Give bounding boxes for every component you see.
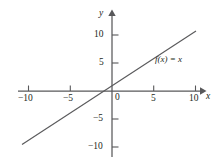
x-tick-label-neg10: −10 bbox=[18, 94, 33, 104]
function-graph-figure: y x 0 −10 −5 5 10 10 5 −5 −10 f(x) = x bbox=[0, 0, 215, 161]
function-annotation-label: f(x) = x bbox=[155, 55, 182, 64]
x-tick-label-neg5: −5 bbox=[63, 94, 73, 104]
y-tick-label-neg10: −10 bbox=[88, 142, 103, 152]
function-line-fx-equals-x bbox=[22, 31, 196, 145]
x-tick-label-pos10: 10 bbox=[189, 94, 198, 104]
y-axis-label: y bbox=[99, 9, 103, 19]
x-axis-label: x bbox=[206, 92, 210, 102]
y-tick-label-pos5: 5 bbox=[99, 58, 104, 68]
y-axis-arrowhead bbox=[108, 10, 115, 17]
y-tick-label-pos10: 10 bbox=[94, 30, 103, 40]
plot-canvas bbox=[0, 0, 215, 161]
origin-label: 0 bbox=[115, 93, 120, 103]
y-tick-label-neg5: −5 bbox=[93, 114, 103, 124]
x-tick-label-pos5: 5 bbox=[151, 94, 156, 104]
